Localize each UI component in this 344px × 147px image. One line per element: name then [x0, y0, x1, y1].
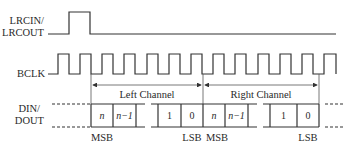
- left-msb-label: MSB: [91, 132, 113, 143]
- left-channel-label: Left Channel: [119, 89, 174, 100]
- svg-text:LRCIN/: LRCIN/: [10, 15, 45, 26]
- left-bit-n-minus-1: n−1: [116, 110, 133, 121]
- svg-text:LRCOUT: LRCOUT: [2, 27, 45, 38]
- right-bit-n-minus-1: n−1: [228, 110, 245, 121]
- i2s-timing-diagram: LRCIN/ LRCOUT BCLK DIN/ DOUT Left Channe…: [0, 0, 344, 147]
- left-lsb-label: LSB: [182, 132, 201, 143]
- svg-text:DIN/: DIN/: [18, 103, 40, 114]
- bclk-waveform: [48, 54, 336, 74]
- right-lsb-label: LSB: [298, 132, 317, 143]
- right-bit-n: n: [212, 110, 217, 121]
- right-bit-0: 0: [306, 110, 311, 121]
- right-msb-label: MSB: [206, 132, 228, 143]
- left-bit-n: n: [100, 110, 105, 121]
- din-label: DIN/ DOUT: [15, 103, 45, 126]
- left-bit-0: 0: [190, 110, 195, 121]
- din-waveform: [52, 104, 344, 127]
- lrc-label: LRCIN/ LRCOUT: [2, 15, 45, 38]
- lrc-waveform: [48, 12, 336, 34]
- left-bit-1: 1: [167, 110, 172, 121]
- bclk-label: BCLK: [17, 68, 45, 79]
- svg-text:DOUT: DOUT: [15, 115, 45, 126]
- right-channel-label: Right Channel: [231, 89, 292, 100]
- right-bit-1: 1: [281, 110, 286, 121]
